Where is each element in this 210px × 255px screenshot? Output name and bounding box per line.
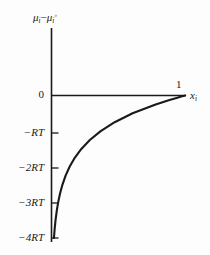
y-tick-label-minus-3rt: −3RT (6, 197, 44, 208)
y-axis-label: μi−μi◦ (33, 12, 57, 25)
chemical-potential-curve (54, 96, 185, 239)
y-tick-label-minus-rt: −RT (10, 127, 44, 138)
x-axis-label: xi (190, 90, 197, 102)
x-axis-label-sub: i (195, 94, 197, 103)
x-tick-label-1: 1 (176, 79, 182, 90)
chemical-potential-chart: μi−μi◦ 0 −RT −2RT −3RT −4RT 1 xi (0, 0, 210, 255)
y-tick-label-minus-4rt: −4RT (6, 232, 44, 243)
y-axis-label-standard-state-symbol: ◦ (54, 11, 57, 20)
y-tick-label-minus-2rt: −2RT (6, 162, 44, 173)
y-tick-label-0: 0 (18, 89, 44, 100)
